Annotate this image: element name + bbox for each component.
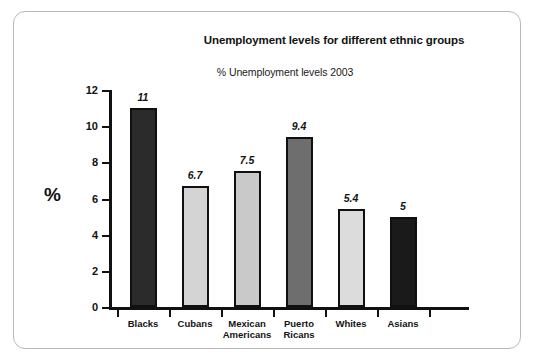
y-tick-label: 6: [92, 193, 98, 205]
category-label: Puerto Ricans: [283, 318, 314, 340]
bar: [130, 108, 157, 307]
x-tick-mark: [429, 310, 431, 317]
x-tick-mark: [325, 310, 327, 317]
bar-value-label: 5.4: [344, 192, 359, 204]
bar-value-label: 5: [400, 200, 406, 212]
category-label: Whites: [335, 318, 366, 329]
bar-value-label: 6.7: [188, 169, 203, 181]
chart-subtitle: % Unemployment levels 2003: [155, 66, 415, 78]
category-label: Blacks: [128, 318, 159, 329]
y-tick-label: 8: [92, 156, 98, 168]
x-axis-line: [109, 307, 469, 310]
bar-value-label: 11: [138, 91, 149, 103]
bar: [390, 217, 417, 307]
y-tick-label: 4: [92, 229, 98, 241]
x-tick-mark: [377, 310, 379, 317]
bar: [234, 171, 261, 307]
y-tick-mark: [102, 271, 109, 273]
category-label: Mexican Americans: [223, 318, 272, 340]
bar: [182, 186, 209, 307]
bar: [286, 137, 313, 307]
y-tick-mark: [102, 90, 109, 92]
x-tick-mark: [221, 310, 223, 317]
y-tick-label: 10: [86, 120, 98, 132]
category-label: Cubans: [178, 318, 213, 329]
bar-value-label: 9.4: [292, 120, 307, 132]
x-tick-mark: [169, 310, 171, 317]
y-tick-mark: [102, 162, 109, 164]
y-tick-mark: [102, 199, 109, 201]
y-tick-label: 12: [86, 84, 98, 96]
y-axis-title: %: [44, 184, 61, 206]
bar: [338, 209, 365, 307]
y-tick-mark: [102, 235, 109, 237]
category-label: Asians: [387, 318, 418, 329]
x-tick-mark: [117, 310, 119, 317]
y-tick-label: 0: [92, 301, 98, 313]
y-axis-line: [109, 90, 112, 310]
y-tick-label: 2: [92, 265, 98, 277]
y-tick-mark: [102, 307, 109, 309]
plot-area: 024681012 116.77.59.45.45 BlacksCubansMe…: [109, 90, 469, 310]
x-tick-mark: [273, 310, 275, 317]
y-tick-mark: [102, 126, 109, 128]
bar-value-label: 7.5: [240, 154, 255, 166]
chart-title: Unemployment levels for different ethnic…: [164, 34, 504, 46]
figure-frame: Unemployment levels for different ethnic…: [13, 11, 521, 349]
